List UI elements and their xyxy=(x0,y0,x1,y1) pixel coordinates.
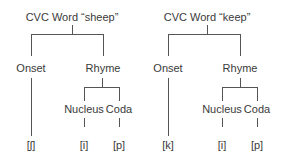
nucleus-label: Nucleus xyxy=(64,103,104,115)
onset-stem xyxy=(168,34,169,56)
coda-stem xyxy=(257,87,258,101)
tree-sheep: CVC Word “sheep” Onset Rhyme Nucleus Cod… xyxy=(0,0,143,157)
coda-leaf-stem xyxy=(257,118,258,127)
coda-leaf: [p] xyxy=(113,139,125,151)
onset-leaf-stem xyxy=(168,78,169,136)
rhyme-branch xyxy=(84,87,120,88)
rhyme-label: Rhyme xyxy=(86,62,121,74)
nucleus-leaf: [i] xyxy=(80,139,89,151)
coda-leaf: [p] xyxy=(251,139,263,151)
onset-label: Onset xyxy=(16,62,45,74)
root-branch xyxy=(168,34,241,35)
nucleus-leaf: [i] xyxy=(218,139,227,151)
rhyme-stem xyxy=(103,34,104,56)
tree-title: CVC Word “keep” xyxy=(164,11,251,23)
coda-stem xyxy=(119,87,120,101)
rhyme-label: Rhyme xyxy=(223,62,258,74)
nucleus-leaf-stem xyxy=(84,118,85,127)
onset-leaf: [k] xyxy=(162,139,174,151)
coda-leaf-stem xyxy=(119,118,120,127)
nucleus-label: Nucleus xyxy=(202,103,242,115)
nucleus-stem xyxy=(84,87,85,101)
nucleus-stem xyxy=(222,87,223,101)
root-branch xyxy=(31,34,104,35)
onset-stem xyxy=(31,34,32,56)
nucleus-leaf-stem xyxy=(222,118,223,127)
onset-label: Onset xyxy=(153,62,182,74)
rhyme-branch xyxy=(222,87,258,88)
tree-title: CVC Word “sheep” xyxy=(26,11,119,23)
onset-leaf-stem xyxy=(31,78,32,136)
coda-label: Coda xyxy=(244,103,270,115)
rhyme-stem xyxy=(240,34,241,56)
coda-label: Coda xyxy=(106,103,132,115)
onset-leaf: [ʃ] xyxy=(27,139,36,151)
tree-keep: CVC Word “keep” Onset Rhyme Nucleus Coda… xyxy=(143,0,286,157)
